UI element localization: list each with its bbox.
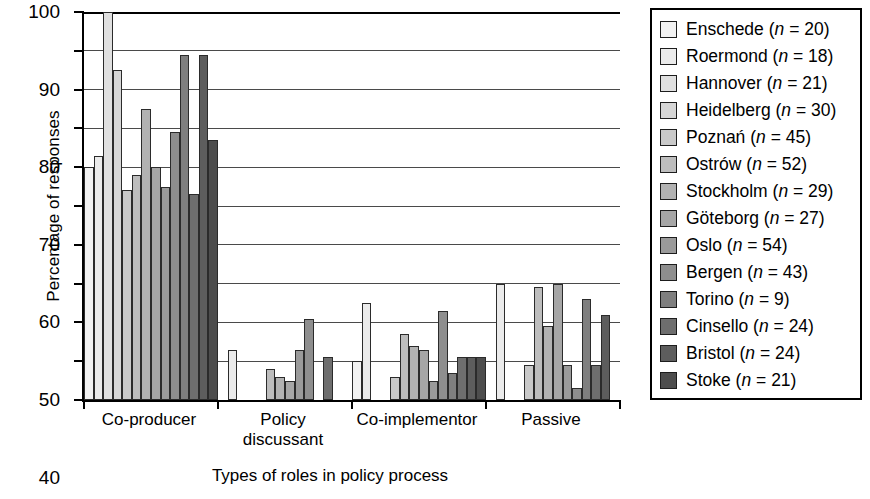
bar <box>84 167 94 400</box>
legend-item: Enschede (n = 20) <box>660 16 860 43</box>
bar-group <box>352 12 486 400</box>
legend-label: Hannover (n = 21) <box>686 73 828 94</box>
legend-item: Oslo (n = 54) <box>660 232 860 259</box>
legend-item: Bristol (n = 24) <box>660 340 860 367</box>
y-tick-label-50: 50 <box>39 390 60 409</box>
bar <box>122 190 132 400</box>
bar <box>113 70 123 400</box>
y-tick-label-70: 70 <box>39 234 60 253</box>
bar <box>189 194 199 400</box>
bar-group <box>486 12 620 400</box>
legend-swatch <box>660 102 677 119</box>
legend-swatch <box>660 21 677 38</box>
x-axis-title: Types of roles in policy process <box>0 466 660 486</box>
bar-group <box>218 12 352 400</box>
legend-swatch <box>660 129 677 146</box>
bar <box>448 373 458 400</box>
legend-item: Hannover (n = 21) <box>660 70 860 97</box>
legend-label: Bristol (n = 24) <box>686 343 800 364</box>
legend-label: Cinsello (n = 24) <box>686 316 814 337</box>
bar <box>457 357 467 400</box>
bar <box>180 55 190 400</box>
legend-swatch <box>660 75 677 92</box>
bar <box>94 156 104 400</box>
bar-chart-figure: Percentage of responses 0102030405060708… <box>0 0 870 499</box>
legend-item: Ostrów (n = 52) <box>660 151 860 178</box>
legend-label: Bergen (n = 43) <box>686 262 808 283</box>
legend-label: Stoke (n = 21) <box>686 370 796 391</box>
legend-label: Göteborg (n = 27) <box>686 208 825 229</box>
bar <box>524 365 534 400</box>
y-tick-40: 40 <box>74 244 84 246</box>
y-tick-label-90: 90 <box>39 79 60 98</box>
legend-label: Ostrów (n = 52) <box>686 154 807 175</box>
legend-item: Stoke (n = 21) <box>660 367 860 394</box>
y-tick-100: 100 <box>74 11 84 13</box>
legend-swatch <box>660 48 677 65</box>
legend-label: Heidelberg (n = 30) <box>686 100 836 121</box>
bar <box>400 334 410 400</box>
y-tick-label-100: 100 <box>28 2 60 21</box>
bar <box>295 350 305 400</box>
legend-item: Cinsello (n = 24) <box>660 313 860 340</box>
x-tick <box>83 400 85 409</box>
x-category-label: Co-producer <box>82 410 216 430</box>
legend-swatch <box>660 318 677 335</box>
bar <box>601 315 611 400</box>
legend-label: Enschede (n = 20) <box>686 19 830 40</box>
legend-label: Poznań (n = 45) <box>686 127 811 148</box>
bar <box>161 187 171 400</box>
bar <box>553 284 563 400</box>
bar <box>419 350 429 400</box>
bar <box>534 287 544 400</box>
bar <box>352 361 362 400</box>
legend-item: Göteborg (n = 27) <box>660 205 860 232</box>
bar <box>438 311 448 400</box>
bar <box>409 346 419 400</box>
bar <box>563 365 573 400</box>
legend-swatch <box>660 372 677 389</box>
legend-item: Torino (n = 9) <box>660 286 860 313</box>
x-tick <box>351 400 353 409</box>
plot-area: 0102030405060708090100 <box>82 12 620 402</box>
bar <box>429 381 439 400</box>
legend-item: Roermond (n = 18) <box>660 43 860 70</box>
bar <box>208 140 218 400</box>
bar <box>141 109 151 400</box>
legend-item: Heidelberg (n = 30) <box>660 97 860 124</box>
legend-swatch <box>660 156 677 173</box>
legend-item: Poznań (n = 45) <box>660 124 860 151</box>
legend-item: Bergen (n = 43) <box>660 259 860 286</box>
bar <box>151 167 161 400</box>
legend-swatch <box>660 291 677 308</box>
bar <box>199 55 209 400</box>
y-tick-label-80: 80 <box>39 157 60 176</box>
legend-swatch <box>660 210 677 227</box>
x-category-label: Passive <box>484 410 618 430</box>
y-tick-label-60: 60 <box>39 312 60 331</box>
y-tick-10: 10 <box>74 360 84 362</box>
bar-group <box>84 12 218 400</box>
bar <box>170 132 180 400</box>
legend-swatch <box>660 264 677 281</box>
legend-label: Stockholm (n = 29) <box>686 181 833 202</box>
legend-label: Torino (n = 9) <box>686 289 790 310</box>
y-tick-70: 70 <box>74 127 84 129</box>
bar <box>467 357 477 400</box>
bar <box>103 12 113 400</box>
legend-label: Roermond (n = 18) <box>686 46 833 67</box>
bar <box>228 350 238 400</box>
bar <box>266 369 276 400</box>
y-tick-90: 90 <box>74 50 84 52</box>
legend-label: Oslo (n = 54) <box>686 235 788 256</box>
x-tick <box>217 400 219 409</box>
y-tick-60: 60 <box>74 166 84 168</box>
plot-inner <box>84 12 620 400</box>
bar <box>476 357 486 400</box>
bar <box>582 299 592 400</box>
y-tick-20: 20 <box>74 321 84 323</box>
x-tick <box>619 400 621 409</box>
legend-swatch <box>660 345 677 362</box>
x-category-label: Co-implementor <box>350 410 484 430</box>
y-tick-80: 80 <box>74 89 84 91</box>
